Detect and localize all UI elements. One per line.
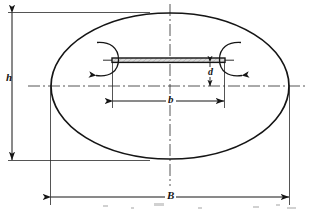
dimension-label-B: B (165, 190, 176, 201)
dimension-label-b: b (166, 94, 176, 105)
dimension-label-d: d (206, 67, 215, 77)
dimension-label-h: h (6, 72, 12, 83)
scan-artifacts (103, 203, 296, 209)
damper-plate-group (103, 58, 234, 62)
diagram-svg (0, 0, 310, 212)
figure-canvas: h d b B (0, 0, 310, 212)
damper-plate (112, 58, 225, 62)
